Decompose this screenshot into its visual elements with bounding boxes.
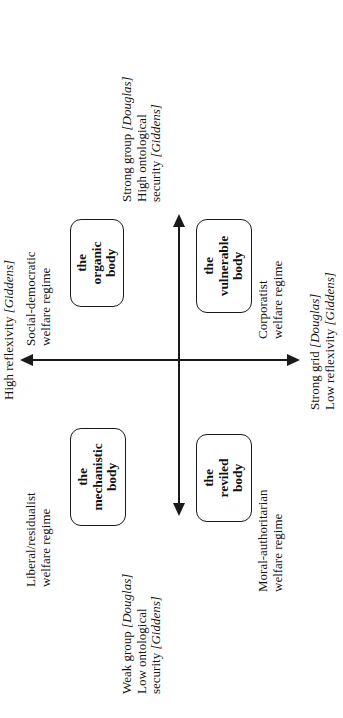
regime-line2: welfare regime [39, 251, 54, 346]
axis-label-strong-grid-low-reflexivity: Strong grid [Douglas] Low reflexivity [G… [308, 300, 337, 410]
regime-caption-liberal-residualist: Liberal/residualist welfare regime [24, 492, 53, 587]
axis-label-line2: Low ontological [135, 574, 150, 694]
axis-label-citation: [Giddens] [148, 104, 163, 157]
box-label-line2: organic [90, 242, 105, 285]
quadrant-box-organic-body[interactable]: the organic body [70, 219, 124, 307]
quadrant-box-vulnerable-body[interactable]: the vulnerable body [196, 219, 252, 313]
axis-label-citation: [Douglas] [119, 574, 134, 628]
strong-group-arrowhead-icon [173, 214, 185, 227]
axis-label-text: Low reflexivity [322, 329, 337, 410]
axis-label-text: Strong grid [307, 351, 322, 410]
regime-line1: Moral-authoritarian [256, 489, 271, 592]
box-label-line3: body [105, 463, 120, 491]
high-reflexivity-arrowhead-icon [20, 354, 33, 366]
regime-line2: welfare regime [271, 489, 286, 592]
axis-label-line2: Low reflexivity [Giddens] [323, 300, 338, 410]
axis-label-line2: High ontological [135, 76, 150, 202]
regime-line1: Social-democratic [24, 251, 39, 346]
axis-label-line1: Strong grid [Douglas] [308, 300, 323, 410]
regime-caption-social-democratic: Social-democratic welfare regime [24, 251, 53, 346]
horizontal-axis-line [178, 225, 180, 505]
axis-label-citation: [Giddens] [1, 260, 16, 313]
axis-label-text: Weak group [119, 631, 134, 694]
grid-group-typology-diagram: the organic body the vulnerable body the… [0, 0, 343, 718]
box-label-line3: body [104, 249, 119, 277]
weak-group-arrowhead-icon [173, 503, 185, 516]
box-label-line3: body [231, 252, 246, 280]
axis-label-text: security [148, 653, 163, 694]
axis-label-citation: [Giddens] [322, 272, 337, 325]
box-label-line2: mechanistic [91, 443, 106, 510]
box-label-line2: reviled [217, 459, 232, 498]
quadrant-box-reviled-body[interactable]: the reviled body [196, 434, 252, 522]
regime-caption-moral-authoritarian: Moral-authoritarian welfare regime [256, 489, 285, 592]
axis-label-high-reflexivity: High reflexivity [Giddens] [2, 310, 17, 400]
axis-label-line1: High reflexivity [Giddens] [2, 310, 17, 400]
regime-line2: welfare regime [39, 492, 54, 587]
box-label-line1: the [202, 469, 217, 487]
axis-label-citation: [Douglas] [307, 294, 322, 348]
axis-label-weak-group: Weak group [Douglas] Low ontological sec… [120, 574, 164, 694]
regime-line1: Liberal/residualist [24, 492, 39, 587]
regime-line2: welfare regime [271, 261, 286, 339]
low-reflexivity-arrowhead-icon [287, 354, 300, 366]
regime-line1: Corporatist [256, 261, 271, 339]
axis-label-text: security [148, 161, 163, 202]
axis-label-citation: [Douglas] [119, 76, 134, 130]
box-label-line1: the [76, 468, 91, 486]
axis-label-line3: security [Giddens] [149, 574, 164, 694]
box-label-line1: the [75, 254, 90, 272]
box-label-line2: vulnerable [217, 236, 232, 297]
axis-label-line1: Strong group [Douglas] [120, 76, 135, 202]
axis-label-citation: [Giddens] [148, 596, 163, 649]
axis-label-text: Strong group [119, 134, 134, 202]
axis-label-strong-group: Strong group [Douglas] High ontological … [120, 76, 164, 202]
vertical-axis-line [30, 359, 296, 361]
axis-label-text: High reflexivity [1, 317, 16, 400]
box-label-line1: the [202, 257, 217, 275]
box-label-line3: body [231, 464, 246, 492]
axis-label-line3: security [Giddens] [149, 76, 164, 202]
quadrant-box-mechanistic-body[interactable]: the mechanistic body [70, 428, 126, 526]
axis-label-line1: Weak group [Douglas] [120, 574, 135, 694]
regime-caption-corporatist: Corporatist welfare regime [256, 261, 285, 339]
figure-rotation-wrapper: the organic body the vulnerable body the… [0, 0, 343, 718]
